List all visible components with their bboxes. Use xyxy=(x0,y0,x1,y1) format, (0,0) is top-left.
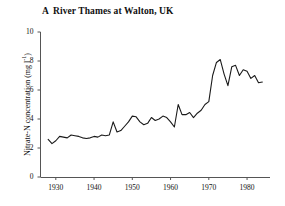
x-axis-tick-label: 1940 xyxy=(81,183,107,192)
data-series-line xyxy=(48,60,262,144)
chart-figure: ARiver Thames at Walton, UK Nitrate-N co… xyxy=(0,0,285,206)
plot-area xyxy=(0,0,285,206)
x-axis-tick-label: 1950 xyxy=(119,183,145,192)
y-axis-tick-label: 2 xyxy=(20,143,34,152)
y-axis-tick-label: 0 xyxy=(20,172,34,181)
y-axis-tick-label: 10 xyxy=(20,27,34,36)
y-axis-tick-label: 6 xyxy=(20,85,34,94)
x-axis-tick-label: 1930 xyxy=(43,183,69,192)
y-axis-tick-label: 8 xyxy=(20,56,34,65)
axes xyxy=(38,32,271,180)
y-axis-tick-label: 4 xyxy=(20,114,34,123)
x-axis-tick-label: 1960 xyxy=(158,183,184,192)
x-axis-tick-label: 1970 xyxy=(196,183,222,192)
x-axis-tick-label: 1980 xyxy=(234,183,260,192)
